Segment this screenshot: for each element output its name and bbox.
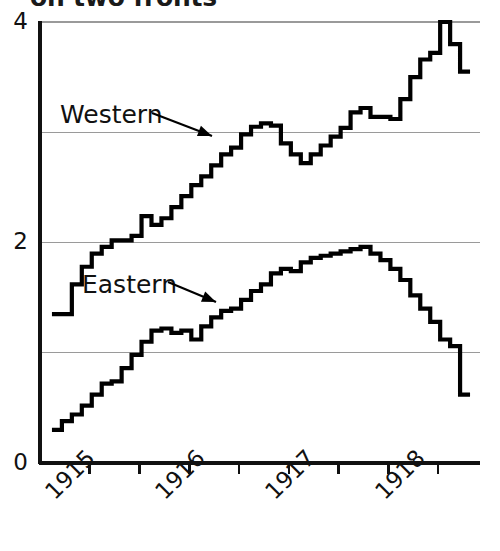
arrow-head-western xyxy=(197,126,212,136)
arrow-head-eastern xyxy=(201,292,216,302)
series-line-eastern xyxy=(52,247,470,430)
data-series xyxy=(52,22,470,430)
chart-figure: on two fronts 4 2 0 1915 1916 1917 1918 … xyxy=(0,0,500,551)
gridlines xyxy=(38,22,480,463)
x-axis-ticks xyxy=(90,463,438,474)
annotation-arrows xyxy=(152,113,216,302)
series-line-western xyxy=(52,22,470,314)
plot-area xyxy=(0,0,500,551)
